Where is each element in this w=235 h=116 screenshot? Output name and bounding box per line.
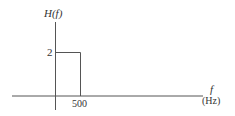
h-of-f-curve	[56, 53, 81, 97]
y-axis-label: H(f)	[43, 7, 63, 20]
x-tick-label: 500	[72, 98, 87, 109]
x-axis-unit: (Hz)	[202, 95, 220, 107]
y-tick-label: 2	[47, 46, 53, 58]
x-axis-label: f	[210, 83, 215, 95]
frequency-response-plot: H(f) 2 500 f (Hz)	[0, 0, 235, 116]
